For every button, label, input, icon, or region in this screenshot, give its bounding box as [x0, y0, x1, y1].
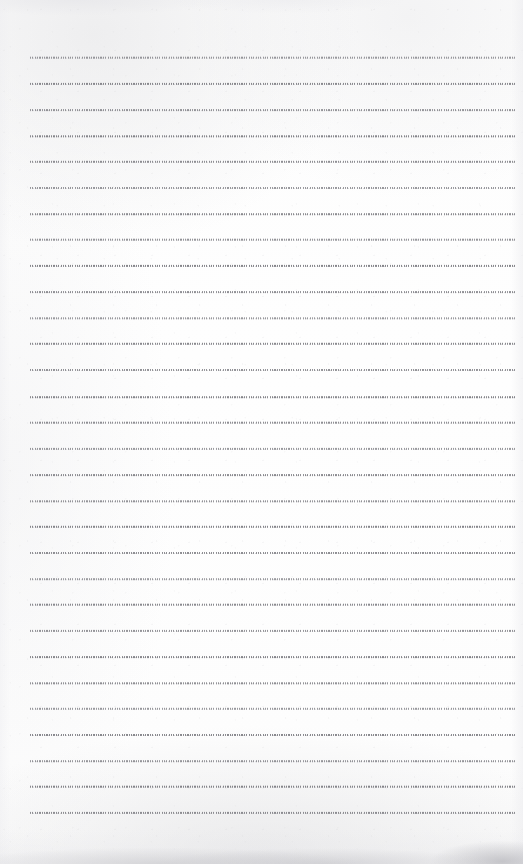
- ruled-line: [30, 630, 515, 632]
- ruled-line: [30, 552, 515, 554]
- ruled-line: [30, 604, 515, 606]
- ruled-line: [30, 187, 515, 189]
- ruled-line: [30, 213, 515, 215]
- ruled-line: [30, 656, 515, 658]
- ruled-line: [30, 83, 515, 85]
- ruled-line: [30, 786, 515, 788]
- ruled-line: [30, 422, 515, 424]
- ruled-line: [30, 448, 515, 450]
- ruled-line: [30, 812, 515, 814]
- ruled-line: [30, 474, 515, 476]
- scanned-page: [0, 0, 523, 864]
- ruled-line: [30, 760, 515, 762]
- ruled-line: [30, 369, 515, 371]
- ruled-lines-layer: [0, 0, 523, 864]
- ruled-line: [30, 526, 515, 528]
- ruled-line: [30, 109, 515, 111]
- ruled-line: [30, 265, 515, 267]
- ruled-line: [30, 135, 515, 137]
- ruled-line: [30, 343, 515, 345]
- ruled-line: [30, 682, 515, 684]
- ruled-line: [30, 161, 515, 163]
- ruled-line: [30, 578, 515, 580]
- ruled-line: [30, 57, 515, 59]
- ruled-line: [30, 734, 515, 736]
- ruled-line: [30, 291, 515, 293]
- ruled-line: [30, 239, 515, 241]
- ruled-line: [30, 500, 515, 502]
- ruled-line: [30, 317, 515, 319]
- ruled-line: [30, 708, 515, 710]
- ruled-line: [30, 396, 515, 398]
